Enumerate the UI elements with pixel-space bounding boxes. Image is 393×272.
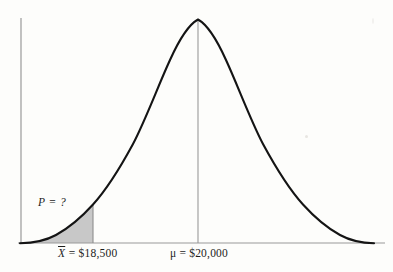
shaded-tail-region (22, 205, 93, 244)
mu-equals: = (179, 247, 186, 259)
normal-distribution-figure: P = ? X = $18,500 μ = $20,000 (0, 0, 393, 272)
probability-annotation: P = ? (38, 196, 66, 208)
x-bar-value: $18,500 (79, 247, 118, 259)
mu-symbol: μ (170, 247, 176, 259)
x-bar-equals: = (69, 247, 76, 259)
mu-value: $20,000 (189, 247, 228, 259)
distribution-plot (0, 0, 393, 272)
sample-mean-axis-label: X = $18,500 (58, 247, 117, 259)
population-mean-axis-label: μ = $20,000 (170, 247, 228, 259)
normal-curve (20, 20, 374, 244)
x-bar-symbol: X (58, 247, 66, 259)
